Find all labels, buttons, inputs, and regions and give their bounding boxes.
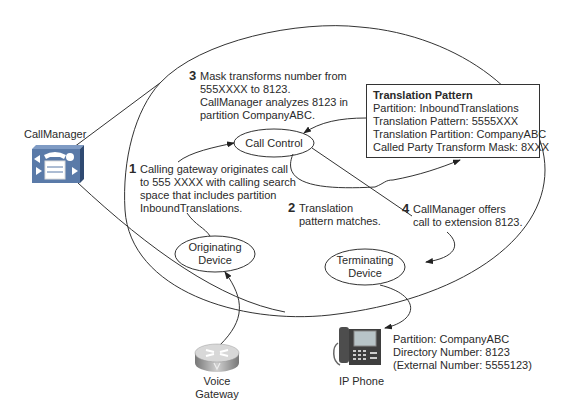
- step-3-text: Mask transforms number from: [200, 70, 348, 83]
- step-1-text: to 555 XXXX with calling search: [140, 176, 296, 189]
- originating-device-label-1: Originating: [175, 241, 255, 254]
- call-control-node: Call Control: [234, 137, 314, 150]
- originating-device-node: Originating Device: [175, 241, 255, 267]
- voice-gateway-label-2: Gateway: [187, 388, 247, 401]
- arrow-terminating-to-ipphone: [380, 285, 411, 328]
- step-3-text: 555XXXX to 8123.: [200, 83, 348, 96]
- translation-pattern-line: Called Party Transform Mask: 8XXX: [373, 141, 533, 154]
- step-3-text: CallManager analyzes 8123 in: [200, 96, 348, 109]
- arrow-step1-to-callcontrol: [178, 143, 234, 162]
- step-1-text: Calling gateway originates call: [140, 163, 296, 176]
- ip-phone-details: Partition: CompanyABC Directory Number: …: [393, 333, 532, 372]
- translation-pattern-line: Translation Partition: CompanyABC: [373, 128, 533, 141]
- arrow-callcontrol-to-translation: [291, 154, 460, 188]
- link-step1-originating: [187, 213, 210, 236]
- translation-pattern-line: Partition: InboundTranslations: [373, 102, 533, 115]
- call-control-label: Call Control: [245, 137, 302, 149]
- step-1-text: space that includes partition: [140, 189, 296, 202]
- step-2-text: Translation: [299, 202, 381, 215]
- ip-phone-partition: Partition: CompanyABC: [393, 333, 532, 346]
- step-4-text: call to extension 8123.: [413, 216, 522, 229]
- callmanager-label: CallManager: [24, 128, 86, 141]
- translation-pattern-line: Translation Pattern: 5555XXX: [373, 115, 533, 128]
- translation-pattern-title: Translation Pattern: [373, 89, 533, 102]
- step-4-number: 4: [402, 202, 409, 215]
- ip-phone-icon: [332, 325, 384, 367]
- step-1-text: InboundTranslations.: [140, 202, 296, 215]
- step-4: 4 CallManager offers call to extension 8…: [402, 203, 522, 229]
- step-2-text: pattern matches.: [299, 215, 381, 228]
- step-2-number: 2: [288, 201, 295, 214]
- terminating-device-node: Terminating Device: [325, 254, 405, 280]
- voice-gateway-label-1: Voice: [187, 375, 247, 388]
- step-3-text: partition CompanyABC.: [200, 109, 348, 122]
- step-4-text: CallManager offers: [413, 203, 522, 216]
- step-3-number: 3: [189, 69, 196, 82]
- terminating-device-label-1: Terminating: [325, 254, 405, 267]
- step-2: 2 Translation pattern matches.: [288, 202, 381, 228]
- ip-phone-external-number: (External Number: 5555123): [393, 359, 532, 372]
- voice-gateway-router-icon: [194, 343, 240, 373]
- ip-phone-label: IP Phone: [339, 375, 384, 388]
- step-1: 1 Calling gateway originates call to 555…: [129, 163, 296, 215]
- terminating-device-label-2: Device: [325, 267, 405, 280]
- voice-gateway-node: Voice Gateway: [187, 375, 247, 401]
- callmanager-icon: [28, 145, 86, 185]
- originating-device-label-2: Device: [175, 254, 255, 267]
- step-1-number: 1: [129, 162, 136, 175]
- step-3: 3 Mask transforms number from 555XXXX to…: [189, 70, 348, 122]
- arrow-step4-to-terminating: [426, 232, 455, 262]
- translation-pattern-box: Translation Pattern Partition: InboundTr…: [366, 84, 540, 158]
- ip-phone-directory-number: Directory Number: 8123: [393, 346, 532, 359]
